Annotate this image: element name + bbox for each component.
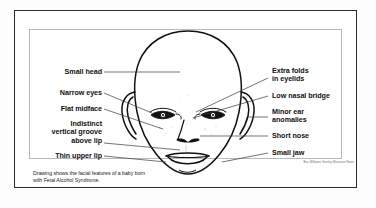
label-small-jaw: Small jaw xyxy=(272,149,358,157)
fas-facial-features-figure: Small head Narrow eyes Flat midface Indi… xyxy=(0,0,376,208)
label-short-nose: Short nose xyxy=(272,132,358,140)
left-pupil-center xyxy=(162,114,164,116)
left-ear-inner xyxy=(127,97,136,134)
label-minor-ear-anomalies: Minor ear anomalies xyxy=(272,108,358,125)
left-epicanthal-fold xyxy=(176,114,181,119)
leader-lines-right xyxy=(193,78,268,162)
label-flat-midface: Flat midface xyxy=(24,105,102,113)
mouth-line xyxy=(166,156,209,158)
label-low-nasal-bridge: Low nasal bridge xyxy=(272,92,364,100)
leader-flat-midface xyxy=(104,109,163,129)
leader-groove-above-lip xyxy=(104,143,180,150)
label-extra-folds-in-eyelids: Extra folds in eyelids xyxy=(272,67,358,84)
leader-thin-upper-lip xyxy=(104,156,166,162)
label-small-head: Small head xyxy=(24,68,102,76)
label-indistinct-vertical-groove-above-lip: Indistinct vertical groove above lip xyxy=(16,120,102,145)
leader-small-jaw xyxy=(222,153,268,162)
label-narrow-eyes: Narrow eyes xyxy=(24,89,102,97)
upper-lip xyxy=(166,153,209,156)
figure-credit: Box Williams Stanley Mountain News xyxy=(292,161,354,164)
nose-bridge xyxy=(178,120,184,139)
figure-caption: Drawing shows the facial features of a b… xyxy=(33,170,208,183)
label-thin-upper-lip: Thin upper lip xyxy=(20,152,102,160)
leader-low-nasal-bridge xyxy=(193,96,268,118)
right-pupil-center xyxy=(212,114,214,116)
right-ear-inner xyxy=(240,97,249,134)
